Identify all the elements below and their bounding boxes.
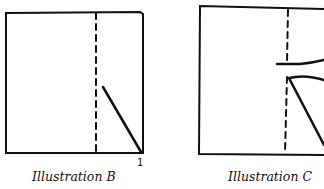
flap-fold-c [289,76,324,145]
square-outline-c [199,6,324,155]
illustration-b [6,12,143,153]
diagram-canvas [0,0,324,189]
corner-label-1: 1 [137,157,143,168]
square-outline-b [6,12,143,153]
dashed-fold-line-c-lower [285,77,287,153]
dashed-fold-line-c-upper [287,10,288,62]
caption-illustration-c: Illustration C [228,169,312,184]
flap-top-edge-c [277,60,324,64]
caption-illustration-b: Illustration B [32,169,116,184]
crease-line-b [103,87,141,152]
illustration-c [199,6,324,155]
